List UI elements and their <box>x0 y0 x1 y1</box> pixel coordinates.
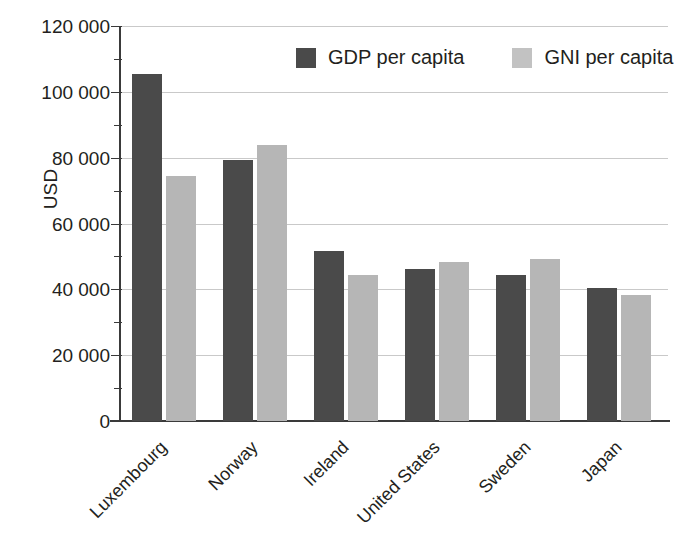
x-axis-labels: LuxembourgNorwayIrelandUnited StatesSwed… <box>0 428 688 544</box>
bar <box>621 295 651 421</box>
legend-swatch-icon <box>296 48 316 68</box>
bar-chart: USD 120 000100 00080 00060 00040 00020 0… <box>0 0 688 544</box>
x-axis-label: Luxembourg <box>43 437 171 544</box>
legend-swatch-icon <box>512 48 532 68</box>
y-tick-label: 100 000 <box>2 83 110 102</box>
bar <box>223 160 253 421</box>
y-tick-label: 80 000 <box>2 149 110 168</box>
y-tick-label: 60 000 <box>2 215 110 234</box>
bar <box>530 259 560 421</box>
bar <box>587 288 617 421</box>
legend-item: GNI per capita <box>512 46 673 69</box>
legend-label: GNI per capita <box>544 46 673 69</box>
bar <box>166 176 196 421</box>
y-axis-line <box>119 26 121 422</box>
bar <box>439 262 469 421</box>
bar <box>496 275 526 421</box>
bar <box>132 74 162 421</box>
legend-item: GDP per capita <box>296 46 464 69</box>
bar <box>314 251 344 421</box>
bar <box>257 145 287 422</box>
y-tick-label: 20 000 <box>2 346 110 365</box>
legend-label: GDP per capita <box>328 46 464 69</box>
y-tick-label: 40 000 <box>2 280 110 299</box>
bar <box>405 269 435 421</box>
y-tick-label: 120 000 <box>2 17 110 36</box>
chart-legend: GDP per capitaGNI per capita <box>296 46 673 69</box>
bar <box>348 275 378 421</box>
bars-layer <box>122 26 668 421</box>
